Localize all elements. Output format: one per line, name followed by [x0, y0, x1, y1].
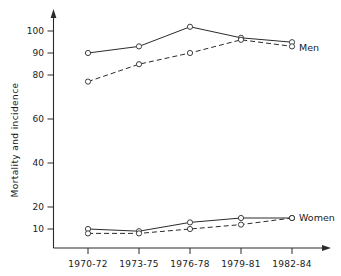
- data-point: [187, 24, 192, 29]
- y-tick-label: 10: [33, 224, 45, 234]
- x-axis-ticks: [88, 248, 292, 254]
- x-tick-label: 1979-81: [221, 259, 261, 269]
- data-point: [136, 62, 141, 67]
- y-axis-arrowhead: [51, 9, 57, 18]
- x-tick-label: 1973-75: [119, 259, 159, 269]
- y-tick-label: 20: [33, 202, 45, 212]
- line-chart-canvas: 100 90 80 60 40 20 10 Mortality and inci…: [0, 0, 341, 276]
- y-axis-title: Mortality and incidence: [10, 83, 20, 198]
- y-axis-ticks: [48, 31, 54, 229]
- series-men-mortality: [85, 37, 294, 84]
- data-point: [187, 220, 192, 225]
- data-point: [238, 37, 243, 42]
- y-tick-label: 90: [33, 48, 45, 58]
- data-point: [85, 50, 90, 55]
- data-point: [136, 231, 141, 236]
- y-tick-label: 40: [33, 158, 45, 168]
- y-tick-label: 100: [27, 26, 44, 36]
- series-line-dashed: [88, 40, 292, 82]
- x-tick-label: 1970-72: [68, 259, 108, 269]
- series-label-women: Women: [299, 212, 335, 223]
- data-point: [289, 215, 294, 220]
- x-axis: [54, 245, 332, 251]
- x-axis-arrowhead: [322, 245, 331, 251]
- y-tick-label: 60: [33, 114, 45, 124]
- series-line-solid: [88, 27, 292, 53]
- y-axis: [51, 9, 57, 248]
- y-tick-label: 80: [33, 70, 45, 80]
- data-point: [85, 79, 90, 84]
- x-axis-tick-labels: 1970-72 1973-75 1976-78 1979-81 1982-84: [68, 259, 312, 269]
- data-point: [187, 50, 192, 55]
- data-point: [238, 222, 243, 227]
- x-tick-label: 1982-84: [272, 259, 312, 269]
- data-point: [85, 231, 90, 236]
- chart-figure: 100 90 80 60 40 20 10 Mortality and inci…: [0, 0, 341, 276]
- x-tick-label: 1976-78: [170, 259, 210, 269]
- data-point: [238, 215, 243, 220]
- data-point: [289, 44, 294, 49]
- data-point: [187, 226, 192, 231]
- series-label-men: Men: [299, 42, 319, 53]
- data-point: [136, 44, 141, 49]
- y-axis-tick-labels: 100 90 80 60 40 20 10: [27, 26, 44, 234]
